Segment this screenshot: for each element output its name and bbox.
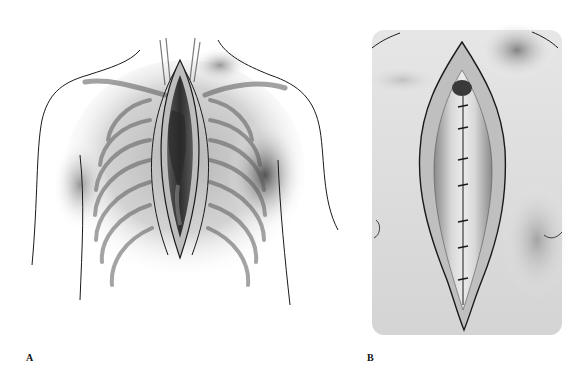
panel-b-illustration [362,0,573,340]
panel-a-illustration [0,0,360,340]
panel-label-b: B [367,352,374,363]
panel-label-a: A [26,352,33,363]
sternal-closure-illustration [362,0,573,340]
chest-sternotomy-illustration [0,0,360,340]
